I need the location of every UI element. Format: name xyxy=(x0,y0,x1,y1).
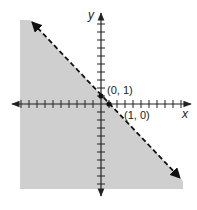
point-0-1 xyxy=(98,93,103,98)
inequality-graph: (0, 1) (1, 0) x y xyxy=(0,0,197,210)
x-axis-label: x xyxy=(181,107,189,121)
point-label-0-1: (0, 1) xyxy=(107,84,133,96)
point-1-0 xyxy=(106,101,111,106)
point-label-1-0: (1, 0) xyxy=(124,109,150,121)
y-axis-label: y xyxy=(87,8,95,22)
